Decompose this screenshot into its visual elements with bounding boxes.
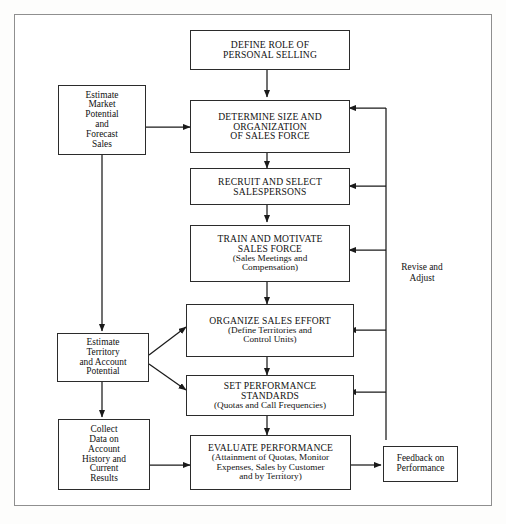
box-determine-size[interactable]: DETERMINE SIZE AND ORGANIZATION OF SALES…	[190, 100, 350, 153]
recruit-line-1: RECRUIT AND SELECT	[218, 177, 322, 187]
estimate-territory-line-4: Potential	[79, 367, 126, 377]
standards-subline-1: (Quotas and Call Frequencies)	[214, 401, 326, 411]
box-feedback-on-performance[interactable]: Feedback on Performance	[383, 446, 458, 482]
box-estimate-territory-account[interactable]: Estimate Territory and Account Potential	[57, 333, 149, 382]
box-evaluate-performance[interactable]: EVALUATE PERFORMANCE (Attainment of Quot…	[190, 435, 351, 490]
box-train-motivate[interactable]: TRAIN AND MOTIVATE SALES FORCE (Sales Me…	[190, 225, 350, 282]
define-role-line-2: PERSONAL SELLING	[223, 50, 317, 60]
revise-label-line-2: and	[429, 262, 443, 272]
label-revise-and-adjust: Revise and Adjust	[392, 262, 452, 284]
organize-subline-2: Control Units)	[209, 335, 330, 345]
determine-size-line-3: OF SALES FORCE	[218, 131, 321, 141]
train-subline-2: Compensation)	[218, 263, 323, 273]
box-estimate-market-potential[interactable]: Estimate Market Potential and Forecast S…	[58, 85, 146, 155]
feedback-line-2: Performance	[397, 464, 445, 474]
box-organize-sales-effort[interactable]: ORGANIZE SALES EFFORT (Define Territorie…	[186, 304, 354, 357]
recruit-line-2: SALESPERSONS	[218, 187, 322, 197]
flowchart-canvas: DEFINE ROLE OF PERSONAL SELLING DETERMIN…	[0, 0, 506, 524]
box-collect-data[interactable]: Collect Data on Account History and Curr…	[58, 419, 150, 490]
revise-label-line-3: Adjust	[409, 273, 434, 283]
estimate-market-line-6: Sales	[85, 140, 118, 150]
box-set-performance-standards[interactable]: SET PERFORMANCE STANDARDS (Quotas and Ca…	[186, 375, 354, 416]
evaluate-subline-3: and by Territory)	[208, 472, 333, 482]
box-recruit-select[interactable]: RECRUIT AND SELECT SALESPERSONS	[190, 168, 350, 205]
revise-label-line-1: Revise	[401, 262, 427, 272]
box-define-role[interactable]: DEFINE ROLE OF PERSONAL SELLING	[190, 30, 350, 70]
collect-data-line-6: Results	[82, 474, 126, 484]
